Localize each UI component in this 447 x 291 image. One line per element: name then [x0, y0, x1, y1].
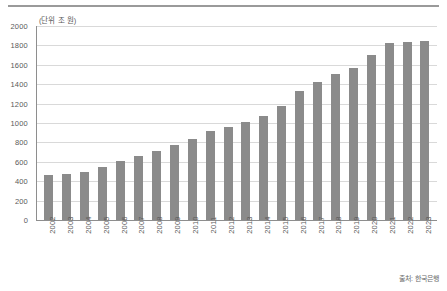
x-axis-slot: 2011	[200, 223, 218, 267]
bar-slot	[201, 26, 219, 220]
bar	[188, 139, 197, 220]
bar-slot	[112, 26, 130, 220]
x-axis-slot: 2015	[272, 223, 290, 267]
bar	[385, 43, 394, 221]
x-axis-slot: 2005	[93, 223, 111, 267]
x-axis-tick-label: 2023	[424, 216, 433, 234]
x-axis-tick-label: 2008	[155, 216, 164, 234]
bar-slot	[344, 26, 362, 220]
bar-slot	[416, 26, 434, 220]
y-axis-tick-label: 1400	[11, 80, 29, 89]
x-axis-slot: 2002	[39, 223, 57, 267]
bar-slot	[130, 26, 148, 220]
bar-slot	[183, 26, 201, 220]
x-axis-tick-label: 2010	[191, 216, 200, 234]
bar-slot	[165, 26, 183, 220]
bar-slot	[398, 26, 416, 220]
x-axis-tick-label: 2012	[227, 216, 236, 234]
bar-slot	[237, 26, 255, 220]
x-axis-tick-label: 2019	[352, 216, 361, 234]
bar	[241, 122, 250, 220]
bar	[259, 116, 268, 220]
x-axis-slot: 2012	[218, 223, 236, 267]
y-axis-tick-label: 1000	[11, 119, 29, 128]
x-axis-slot: 2020	[361, 223, 379, 267]
x-axis-slot: 2017	[308, 223, 326, 267]
bar-slot	[255, 26, 273, 220]
bar-slot	[40, 26, 58, 220]
bar	[224, 127, 233, 221]
y-axis-tick-label: 1600	[11, 60, 29, 69]
bar	[98, 167, 107, 220]
y-axis-tick-label: 400	[15, 177, 28, 186]
x-axis-slot: 2019	[343, 223, 361, 267]
x-axis-tick-label: 2011	[209, 217, 218, 234]
y-axis-tick-label: 2000	[11, 22, 29, 31]
x-axis-tick-label: 2021	[388, 216, 397, 234]
bar	[206, 131, 215, 220]
x-axis-slot: 2004	[75, 223, 93, 267]
plot-area	[36, 26, 437, 221]
y-axis-tick-label: 1200	[11, 99, 29, 108]
bar-slot	[94, 26, 112, 220]
top-divider	[8, 5, 439, 7]
bar-slot	[58, 26, 76, 220]
bar	[331, 74, 340, 220]
x-axis-tick-label: 2007	[137, 216, 146, 234]
bar	[420, 41, 429, 220]
bar	[403, 42, 412, 220]
x-axis-slot: 2016	[290, 223, 308, 267]
bar	[349, 68, 358, 220]
x-axis-tick-label: 2013	[245, 216, 254, 234]
bar	[44, 175, 53, 220]
x-axis-slot: 2007	[129, 223, 147, 267]
x-axis-slot: 2018	[326, 223, 344, 267]
x-axis-tick-label: 2017	[317, 216, 326, 234]
bar	[134, 156, 143, 220]
y-axis-tick-label: 600	[15, 157, 28, 166]
y-axis-tick-label: 200	[15, 196, 28, 205]
x-axis-tick-label: 2015	[281, 216, 290, 234]
x-axis-slot: 2021	[379, 223, 397, 267]
x-axis-slot: 2009	[164, 223, 182, 267]
x-axis-tick-label: 2016	[299, 216, 308, 234]
bar-slot	[327, 26, 345, 220]
source-note: 출처: 한국은행	[399, 273, 439, 283]
bar-chart: (단위 조 원) 2000180016001400120010008006004…	[0, 12, 447, 274]
x-axis-tick-label: 2014	[263, 216, 272, 234]
bar-slot	[309, 26, 327, 220]
bar-slot	[76, 26, 94, 220]
y-axis: 2000180016001400120010008006004002000	[0, 12, 32, 220]
x-axis-slot: 2014	[254, 223, 272, 267]
x-axis-slot: 2003	[57, 223, 75, 267]
x-axis-tick-label: 2002	[48, 216, 57, 234]
x-axis-tick-label: 2009	[173, 216, 182, 234]
y-axis-tick-label: 1800	[11, 41, 29, 50]
unit-label: (단위 조 원)	[39, 14, 76, 25]
bar	[80, 172, 89, 220]
x-axis-tick-label: 2004	[84, 216, 93, 234]
bar	[116, 161, 125, 220]
bar-slot	[380, 26, 398, 220]
x-axis-slot: 2010	[182, 223, 200, 267]
bar-series	[37, 26, 437, 220]
x-axis-slot: 2023	[415, 223, 433, 267]
bar-slot	[219, 26, 237, 220]
x-axis-slot: 2008	[146, 223, 164, 267]
x-axis-tick-label: 2006	[120, 216, 129, 234]
x-axis-tick-label: 2020	[370, 216, 379, 234]
x-axis: 2002200320042005200620072008200920102011…	[36, 223, 436, 267]
x-axis-tick-label: 2005	[102, 216, 111, 234]
x-axis-slot: 2013	[236, 223, 254, 267]
x-axis-slot: 2022	[397, 223, 415, 267]
x-axis-tick-label: 2022	[406, 216, 415, 234]
bar	[313, 82, 322, 220]
bar	[152, 151, 161, 220]
bar-slot	[273, 26, 291, 220]
bar-slot	[362, 26, 380, 220]
x-axis-tick-label: 2018	[334, 216, 343, 234]
y-axis-tick-label: 0	[24, 216, 28, 225]
bar-slot	[291, 26, 309, 220]
bar	[367, 55, 376, 220]
x-axis-slot: 2006	[111, 223, 129, 267]
